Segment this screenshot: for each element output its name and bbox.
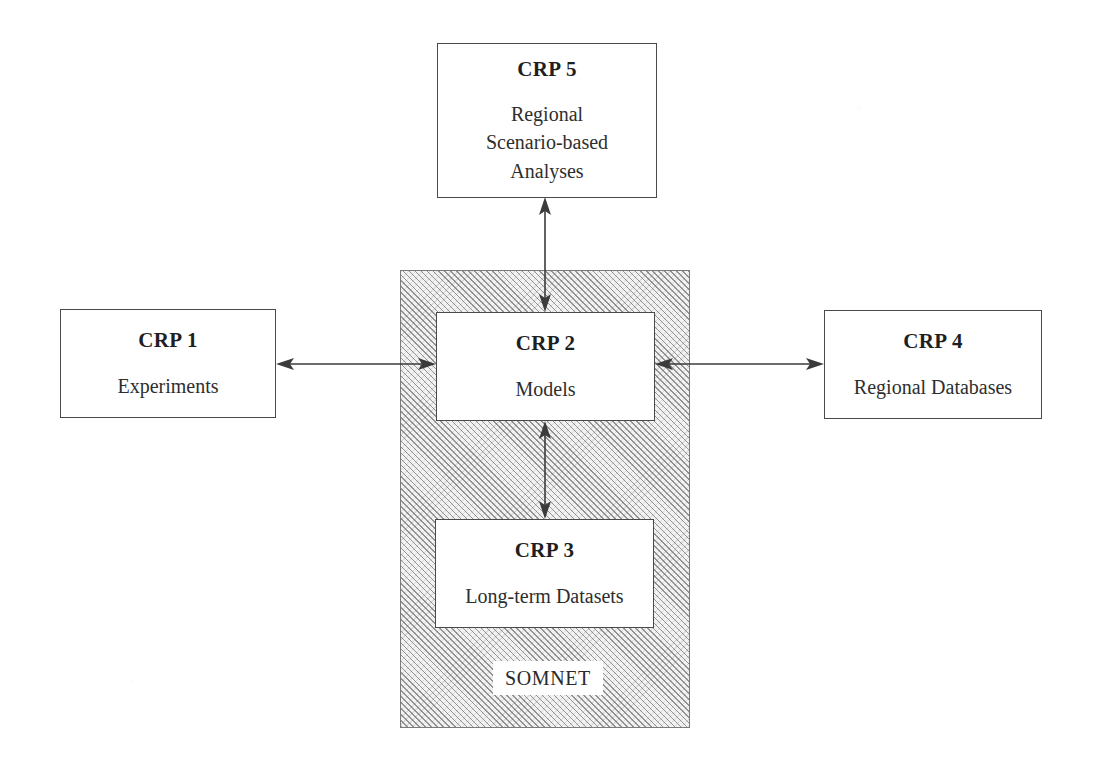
- diagram-canvas: CRP 5 Regional Scenario-based Analyses C…: [0, 0, 1101, 774]
- node-crp1-subtitle: Experiments: [117, 373, 218, 399]
- somnet-label: SOMNET: [493, 661, 603, 695]
- node-crp2[interactable]: CRP 2 Models: [436, 312, 655, 421]
- node-crp5-title: CRP 5: [517, 56, 577, 84]
- node-crp3[interactable]: CRP 3 Long-term Datasets: [435, 519, 654, 628]
- node-crp4-title: CRP 4: [903, 328, 963, 356]
- node-crp5-subtitle: Regional Scenario-based Analyses: [486, 100, 608, 185]
- node-crp4-subtitle: Regional Databases: [854, 374, 1012, 400]
- node-crp3-title: CRP 3: [515, 537, 575, 565]
- node-crp3-subtitle: Long-term Datasets: [465, 583, 623, 609]
- node-crp4[interactable]: CRP 4 Regional Databases: [824, 310, 1042, 419]
- node-crp1[interactable]: CRP 1 Experiments: [60, 309, 276, 418]
- node-crp1-title: CRP 1: [138, 327, 198, 355]
- node-crp5[interactable]: CRP 5 Regional Scenario-based Analyses: [437, 43, 657, 198]
- node-crp2-subtitle: Models: [516, 376, 576, 402]
- node-crp2-title: CRP 2: [516, 330, 576, 358]
